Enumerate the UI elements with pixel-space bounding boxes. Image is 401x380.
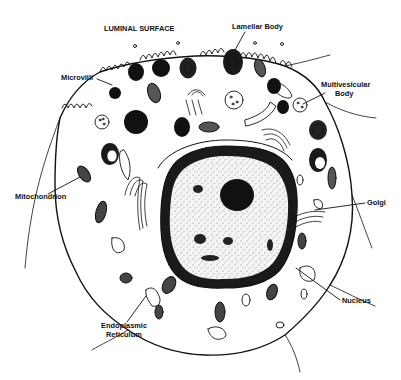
label-luminal-surface: LUMINAL SURFACE [104, 24, 175, 33]
label-microvilli: Microvilli [61, 73, 93, 82]
label-multivesicular-body: Multivesicular [321, 80, 370, 89]
label-lamellar-body: Lamellar Body [232, 22, 284, 31]
nucleolus [220, 179, 254, 211]
microvilli [62, 42, 292, 108]
cell-diagram: LUMINAL SURFACE Lamellar Body Microvilli… [0, 0, 401, 380]
label-mitochondrion: Mitochondrion [15, 192, 67, 201]
label-golgi: Golgi [367, 198, 386, 207]
nucleus [158, 140, 297, 288]
label-multivesicular-body-line2: Body [335, 89, 354, 98]
label-endoplasmic-reticulum-line2: Reticulum [106, 330, 142, 339]
label-endoplasmic-reticulum: Endoplasmic [101, 321, 147, 330]
label-nucleus: Nucleus [342, 296, 371, 305]
